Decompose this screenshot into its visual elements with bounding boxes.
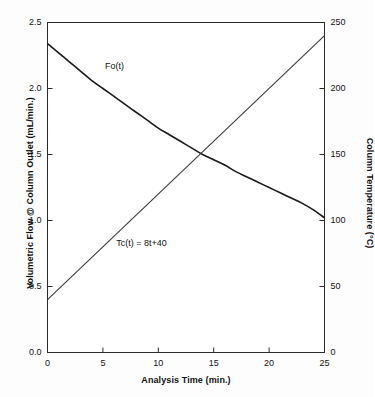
tick-label: 2.0 [16, 83, 42, 93]
tick-label: 20 [256, 358, 282, 368]
plot-frame [48, 23, 325, 353]
tick-label: 0 [35, 358, 61, 368]
tick-label: 1.0 [16, 215, 42, 225]
left-axis-title: Volumetric Flow @ Column Outlet (mL/min.… [25, 73, 35, 313]
series-annotation-fo: Fo(t) [105, 61, 124, 71]
tick-label: 0 [331, 347, 357, 357]
right-axis-title: Column Temperature (°C) [365, 73, 375, 313]
tick-label: 5 [90, 358, 116, 368]
tick-label: 0.5 [16, 281, 42, 291]
tick-label: 25 [312, 358, 338, 368]
tick-label: 1.5 [16, 149, 42, 159]
x-axis-title: Analysis Time (min.) [47, 375, 325, 385]
series-annotation-tc: Tc(t) = 8t+40 [116, 238, 167, 248]
tick-label: 0.0 [16, 347, 42, 357]
tick-label: 15 [201, 358, 227, 368]
tick-label: 150 [331, 149, 357, 159]
tick-label: 100 [331, 215, 357, 225]
tick-label: 200 [331, 83, 357, 93]
tick-label: 50 [331, 281, 357, 291]
tick-label: 2.5 [16, 17, 42, 27]
tick-label: 250 [331, 17, 357, 27]
tick-label: 10 [145, 358, 171, 368]
